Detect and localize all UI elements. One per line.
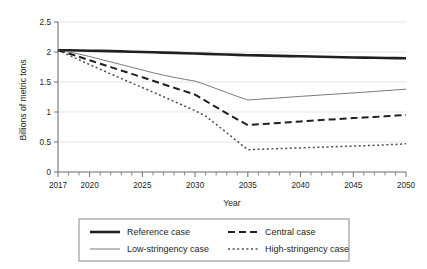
x-tick-label-2035: 2035 (239, 181, 258, 190)
x-tick-label-2017: 2017 (49, 181, 68, 190)
y-axis-title: Billions of metric tons (18, 59, 28, 140)
y-tick-label-0.5: 0.5 (40, 138, 52, 147)
legend-border (79, 219, 349, 261)
legend-label-low-stringency-case: Low-stringency case (127, 244, 209, 254)
x-tick-label-2030: 2030 (186, 181, 205, 190)
x-tick-label-2040: 2040 (291, 181, 310, 190)
emissions-line-chart: 00.511.522.5 201720202025203020352040204… (0, 0, 427, 269)
legend-label-reference-case: Reference case (127, 227, 190, 237)
y-tick-label-1.5: 1.5 (40, 78, 52, 87)
x-axis-title: Year (223, 198, 241, 208)
chart-legend: Reference caseCentral caseLow-stringency… (79, 219, 349, 261)
x-tick-label-2025: 2025 (133, 181, 152, 190)
y-tick-label-1: 1 (46, 108, 51, 117)
legend-label-high-stringency-case: High-stringency case (265, 244, 349, 254)
chart-figure: 00.511.522.5 201720202025203020352040204… (0, 0, 427, 269)
x-tick-label-2020: 2020 (81, 181, 100, 190)
y-tick-label-2: 2 (46, 48, 51, 57)
x-tick-label-2050: 2050 (397, 181, 416, 190)
y-tick-label-0: 0 (46, 168, 51, 177)
x-tick-label-2045: 2045 (344, 181, 363, 190)
y-tick-label-2.5: 2.5 (40, 18, 52, 27)
legend-label-central-case: Central case (265, 227, 316, 237)
